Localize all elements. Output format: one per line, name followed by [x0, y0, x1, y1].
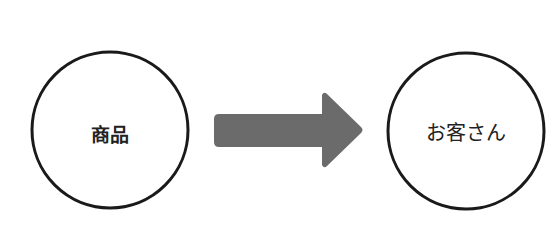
- arrow-right-icon: [214, 93, 363, 168]
- product-node-label: 商品: [91, 120, 129, 147]
- customer-node-label: お客さん: [426, 117, 506, 146]
